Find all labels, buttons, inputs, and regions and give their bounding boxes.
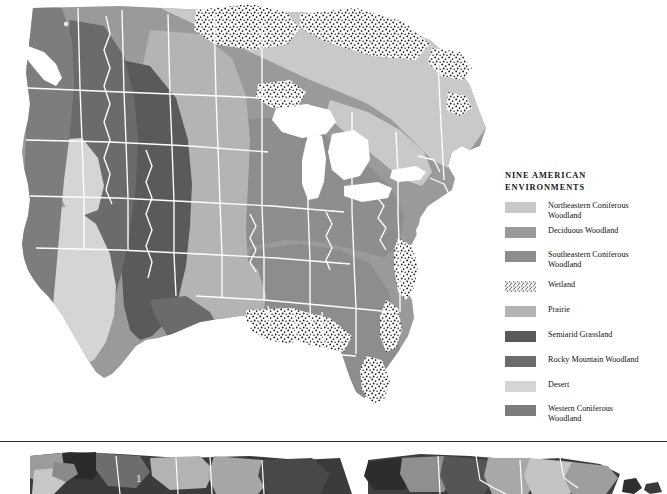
legend-label-semiarid-grassland: Semiarid Grassland <box>548 330 612 340</box>
section-divider <box>0 441 667 442</box>
legend-item-semiarid-grassland[interactable]: Semiarid Grassland <box>505 330 667 344</box>
legend-item-wetland[interactable]: Wetland <box>505 280 667 294</box>
legend-swatch-southeastern-coniferous-woodland <box>505 251 536 262</box>
legend-swatch-semiarid-grassland <box>505 331 536 342</box>
lower-map-panel: 1 <box>0 444 667 494</box>
legend-swatch-rocky-mountain-woodland <box>505 356 536 367</box>
page-root: NINE AMERICAN ENVIRONMENTS Northeastern … <box>0 0 667 494</box>
legend-swatch-prairie <box>505 306 536 317</box>
map-legend: NINE AMERICAN ENVIRONMENTS Northeastern … <box>505 170 667 430</box>
legend-swatch-northeastern-coniferous-woodland <box>505 202 536 213</box>
legend-item-southeastern-coniferous-woodland[interactable]: Southeastern Coniferous Woodland <box>505 250 667 269</box>
legend-swatch-western-coniferous-woodland <box>505 405 536 416</box>
legend-item-northeastern-coniferous-woodland[interactable]: Northeastern Coniferous Woodland <box>505 201 667 220</box>
legend-label-prairie: Prairie <box>548 305 570 315</box>
legend-label-wetland: Wetland <box>548 280 575 290</box>
legend-label-southeastern-coniferous-woodland: Southeastern Coniferous Woodland <box>548 250 629 269</box>
legend-title: NINE AMERICAN ENVIRONMENTS <box>505 170 667 193</box>
lower-cropped-map <box>0 444 667 494</box>
legend-label-northeastern-coniferous-woodland: Northeastern Coniferous Woodland <box>548 201 629 220</box>
legend-item-rocky-mountain-woodland[interactable]: Rocky Mountain Woodland <box>505 355 667 369</box>
environments-map-panel <box>0 0 500 432</box>
legend-label-rocky-mountain-woodland: Rocky Mountain Woodland <box>548 355 639 365</box>
legend-item-deciduous-woodland[interactable]: Deciduous Woodland <box>505 226 667 240</box>
legend-items-list: Northeastern Coniferous Woodland Deciduo… <box>505 201 667 424</box>
legend-item-prairie[interactable]: Prairie <box>505 305 667 319</box>
legend-swatch-wetland <box>505 281 536 292</box>
legend-title-line2: ENVIRONMENTS <box>505 182 667 194</box>
legend-swatch-deciduous-woodland <box>505 227 536 238</box>
environments-map <box>0 0 500 432</box>
legend-title-line1: NINE AMERICAN <box>505 170 667 182</box>
legend-item-desert[interactable]: Desert <box>505 380 667 394</box>
legend-label-deciduous-woodland: Deciduous Woodland <box>548 226 618 236</box>
lower-map-number-label: 1 <box>136 472 142 484</box>
legend-label-western-coniferous-woodland: Western Coniferous Woodland <box>548 404 613 423</box>
legend-swatch-desert <box>505 381 536 392</box>
legend-item-western-coniferous-woodland[interactable]: Western Coniferous Woodland <box>505 404 667 423</box>
legend-label-desert: Desert <box>548 380 569 390</box>
